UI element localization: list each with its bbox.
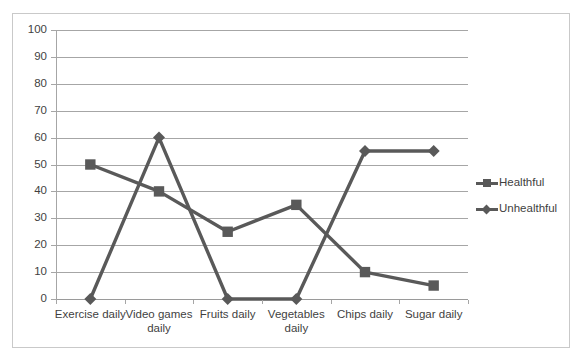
legend-swatch	[476, 177, 498, 189]
y-axis-tick-label: 60	[34, 132, 47, 144]
y-axis-tick-label: 100	[28, 24, 47, 36]
legend-label: Healthful	[499, 177, 544, 189]
diamond-marker-icon	[482, 204, 492, 214]
series-layer	[56, 30, 468, 299]
x-tick	[193, 300, 194, 304]
y-axis-tick-label: 30	[34, 213, 47, 225]
x-tick	[262, 300, 263, 304]
diamond-marker-icon	[359, 145, 371, 157]
square-marker-icon	[360, 267, 370, 277]
y-axis-line	[56, 30, 57, 300]
legend-item-healthful[interactable]: Healthful	[476, 172, 568, 194]
diamond-marker-icon	[428, 145, 440, 157]
square-marker-icon	[85, 159, 95, 169]
y-axis-tick-label: 40	[34, 186, 47, 198]
y-axis-tick-label: 10	[34, 266, 47, 278]
x-tick	[468, 300, 469, 304]
x-tick	[331, 300, 332, 304]
x-axis-labels: Exercise dailyVideo games dailyFruits da…	[56, 307, 468, 353]
plot-area: 0102030405060708090100	[56, 30, 468, 299]
square-marker-icon	[154, 186, 164, 196]
x-axis-category-label: Sugar daily	[396, 307, 472, 321]
chart-frame: 0102030405060708090100 Exercise dailyVid…	[12, 13, 570, 348]
diamond-marker-icon	[153, 132, 165, 144]
x-axis-category-label: Vegetables daily	[258, 307, 334, 335]
square-marker-icon	[428, 280, 438, 290]
legend-swatch	[476, 203, 498, 215]
series-healthful	[85, 159, 439, 290]
x-tick	[56, 300, 57, 304]
chart-legend: HealthfulUnhealthful	[476, 172, 568, 224]
y-axis-tick-label: 90	[34, 51, 47, 63]
square-marker-icon	[483, 179, 491, 187]
square-marker-icon	[291, 200, 301, 210]
x-axis-category-label: Chips daily	[327, 307, 403, 321]
x-axis-ticks	[56, 300, 468, 305]
legend-label: Unhealthful	[499, 203, 557, 215]
x-tick	[399, 300, 400, 304]
x-axis-category-label: Exercise daily	[52, 307, 128, 321]
x-axis-category-label: Video games daily	[121, 307, 197, 335]
y-axis-tick-label: 80	[34, 78, 47, 90]
y-axis-tick-label: 50	[34, 159, 47, 171]
x-axis-category-label: Fruits daily	[190, 307, 266, 321]
legend-item-unhealthful[interactable]: Unhealthful	[476, 198, 568, 220]
x-tick	[125, 300, 126, 304]
series-line	[90, 165, 433, 286]
y-axis-tick-label: 20	[34, 239, 47, 251]
y-axis-tick-label: 0	[41, 293, 47, 305]
square-marker-icon	[222, 227, 232, 237]
y-axis-tick-label: 70	[34, 105, 47, 117]
